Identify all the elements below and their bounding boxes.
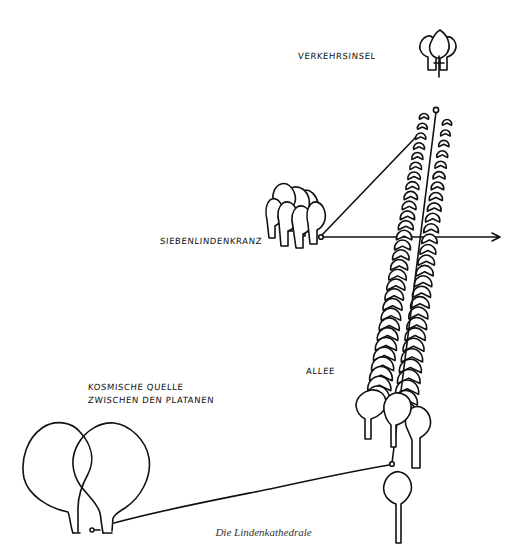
verkehrsinsel-trees-icon bbox=[420, 30, 456, 77]
allee-right-row-icon bbox=[392, 120, 452, 416]
allee-top-node-icon bbox=[433, 107, 438, 112]
kosmische-quelle-platanen-icon bbox=[23, 423, 149, 533]
label-kosmische-quelle-line2: ZWISCHEN DEN PLATANEN bbox=[88, 395, 215, 405]
figure-caption: Die Lindenkathedrale bbox=[0, 526, 527, 538]
label-verkehrsinsel: VERKEHRSINSEL bbox=[298, 51, 377, 61]
line-platanen-to-allee bbox=[114, 465, 389, 523]
label-allee: ALLEE bbox=[306, 366, 336, 376]
label-kosmische-quelle-line1: KOSMISCHE QUELLE bbox=[88, 382, 184, 392]
lindenkathedrale-sketch bbox=[0, 0, 527, 560]
line-to-allee-top bbox=[322, 138, 415, 235]
label-siebenlindenkranz: SIEBENLINDENKRANZ bbox=[160, 236, 263, 246]
siebenlindenkranz-trees-icon bbox=[266, 184, 325, 248]
